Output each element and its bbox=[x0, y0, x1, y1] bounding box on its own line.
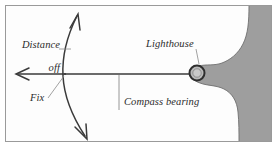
label-distance-off-line2: off bbox=[11, 62, 65, 74]
label-distance-off-line1: Distance bbox=[22, 39, 60, 50]
label-distance-off: Distance off bbox=[11, 27, 65, 96]
lighthouse-symbol-inner bbox=[193, 69, 201, 77]
navigation-diagram: Distance off Fix Compass bearing Lightho… bbox=[0, 0, 278, 147]
label-lighthouse: Lighthouse bbox=[146, 38, 194, 50]
label-fix: Fix bbox=[30, 92, 44, 104]
label-compass-bearing: Compass bearing bbox=[124, 96, 199, 108]
